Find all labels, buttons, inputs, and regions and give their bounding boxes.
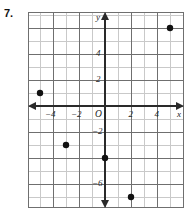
x-tick-label--4: −4 [45, 110, 56, 119]
coordinate-plane: −4−22442−2−6Oyx [28, 12, 184, 208]
problem-number: 7. [4, 8, 13, 19]
x-tick-label-4: 4 [155, 110, 160, 119]
y-tick-label-4: 4 [96, 49, 101, 58]
y-axis-label: y [96, 13, 100, 22]
data-point [128, 194, 134, 200]
y-tick-label-2: 2 [96, 75, 101, 84]
data-point [37, 90, 43, 96]
data-point [102, 155, 108, 161]
origin-label: O [95, 110, 102, 120]
y-tick-label--2: −2 [92, 127, 103, 136]
y-tick-label--6: −6 [92, 179, 103, 188]
x-tick-label--2: −2 [71, 110, 82, 119]
data-point [167, 25, 173, 31]
x-axis-label: x [177, 110, 181, 119]
x-tick-label-2: 2 [129, 110, 134, 119]
figure-root: 7. −4−22442−2−6Oyx [0, 0, 190, 218]
data-point [63, 142, 69, 148]
